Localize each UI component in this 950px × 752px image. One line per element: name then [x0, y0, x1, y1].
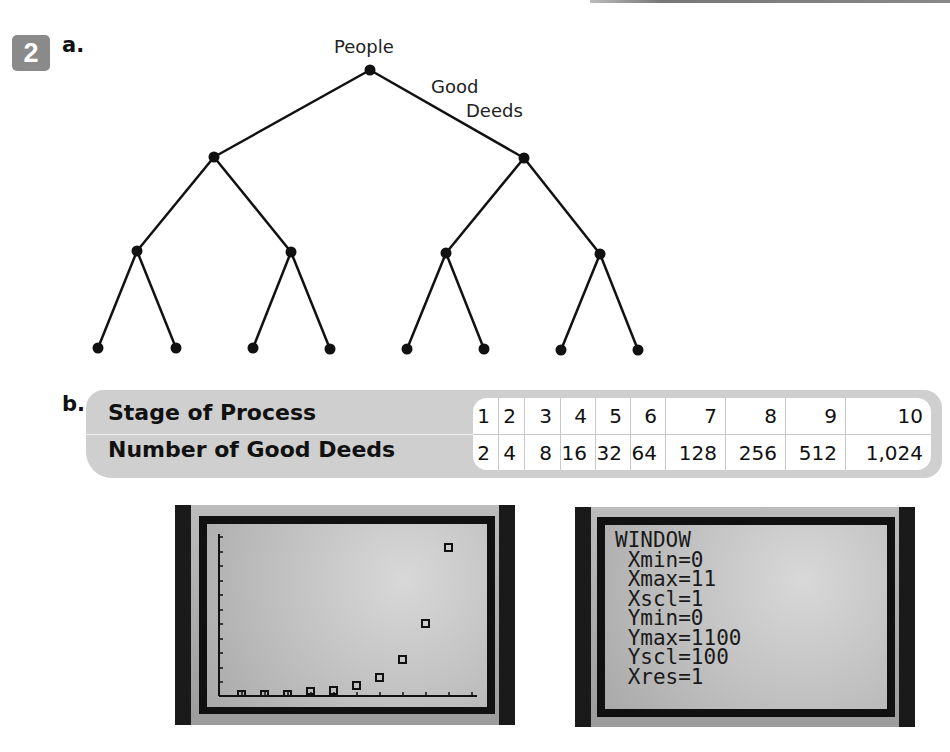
window-settings-screen: WINDOW Xmin=0 Xmax=11 Xscl=1 Ymin=0 Ymax… — [605, 525, 887, 709]
table-cell: 512 — [786, 435, 846, 470]
table-cell: 3 — [525, 398, 561, 434]
tree-diagram — [0, 0, 950, 380]
data-points — [238, 544, 452, 696]
table-cell: 4 — [499, 435, 525, 470]
table-cell: 128 — [666, 435, 726, 470]
table-cell: 10 — [846, 398, 931, 434]
table-cell: 32 — [596, 435, 631, 470]
table-cell: 9 — [786, 398, 846, 434]
data-table: Stage of Process Number of Good Deeds 1 … — [86, 390, 942, 478]
table-row-header-stage: Stage of Process — [108, 400, 316, 425]
table-row-header-deeds: Number of Good Deeds — [108, 437, 395, 462]
table-cell: 5 — [596, 398, 631, 434]
table-cell: 4 — [561, 398, 596, 434]
table-values: 1 2 3 4 5 6 7 8 9 10 2 4 8 16 32 64 128 … — [473, 398, 931, 470]
table-divider — [86, 434, 473, 435]
table-cell: 8 — [525, 435, 561, 470]
table-cell: 64 — [631, 435, 666, 470]
calculator-window-screen: WINDOW Xmin=0 Xmax=11 Xscl=1 Ymin=0 Ymax… — [575, 507, 915, 727]
table-cell: 256 — [726, 435, 786, 470]
scatter-plot — [207, 524, 487, 707]
calculator-plot-screen — [175, 505, 515, 725]
table-cell: 7 — [666, 398, 726, 434]
table-cell: 1 — [473, 398, 499, 434]
table-cell: 16 — [561, 435, 596, 470]
table-cell: 8 — [726, 398, 786, 434]
table-row-deeds: 2 4 8 16 32 64 128 256 512 1,024 — [473, 435, 931, 470]
tree-branch-label-line2: Deeds — [466, 100, 523, 121]
setting-xres: Xres=1 — [628, 665, 704, 689]
tree-root-label: People — [334, 36, 394, 57]
plot-screen — [207, 524, 487, 707]
table-cell: 6 — [631, 398, 666, 434]
table-row-stage: 1 2 3 4 5 6 7 8 9 10 — [473, 398, 931, 434]
window-settings-text: WINDOW Xmin=0 Xmax=11 Xscl=1 Ymin=0 Ymax… — [615, 531, 741, 687]
part-b-label: b. — [62, 392, 85, 416]
tree-branch-label-line1: Good — [431, 76, 478, 97]
table-cell: 2 — [499, 398, 525, 434]
table-cell: 1,024 — [846, 435, 931, 470]
table-cell: 2 — [473, 435, 499, 470]
